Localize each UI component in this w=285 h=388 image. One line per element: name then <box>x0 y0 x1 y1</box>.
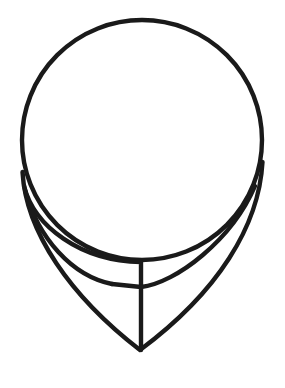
icon-canvas <box>0 0 285 388</box>
speech-bubble-svg <box>0 0 285 388</box>
bubble-tail-notch-path <box>112 284 141 287</box>
